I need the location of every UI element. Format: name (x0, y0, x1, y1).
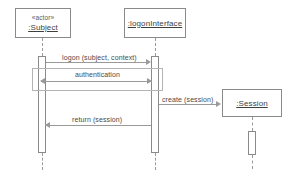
message-line-create[interactable] (159, 104, 217, 105)
lifeline-subject-top (42, 38, 43, 56)
lifeline-logon-interface-bottom (155, 153, 156, 170)
lifeline-subject-bottom (42, 153, 43, 170)
arrowhead-right-icon-logon (146, 59, 151, 65)
message-label-return: return (session) (72, 115, 122, 124)
participant-box-subject[interactable]: «actor» :Subject (15, 8, 71, 38)
arrowhead-right-icon-authentication (147, 78, 152, 84)
participant-box-session[interactable]: :Session (222, 89, 282, 117)
message-line-logon[interactable] (46, 62, 147, 63)
arrowhead-left-icon-return (45, 122, 50, 128)
message-line-return[interactable] (46, 125, 151, 126)
participant-name-subject: :Subject (28, 22, 58, 33)
sequence-diagram-canvas: «actor» :Subject :logonInterface :Sessio… (0, 0, 295, 176)
lifeline-session-top (252, 117, 253, 131)
arrowhead-left-icon-authentication (40, 78, 45, 84)
activation-bar-session[interactable] (248, 131, 256, 155)
lifeline-session-bottom (252, 155, 253, 169)
lifeline-logon-interface-top (155, 38, 156, 56)
participant-stereotype-subject: «actor» (32, 13, 54, 22)
participant-name-session: :Session (236, 98, 267, 109)
participant-name-logon-interface: :logonInterface (128, 18, 182, 29)
message-label-create: create (session) (162, 95, 213, 104)
message-label-authentication: authentication (75, 70, 120, 79)
participant-box-logon-interface[interactable]: :logonInterface (124, 8, 186, 38)
arrowhead-right-icon-create (216, 101, 221, 107)
message-label-logon: logon (subject, context) (62, 53, 137, 62)
message-line-authentication[interactable] (41, 81, 152, 82)
